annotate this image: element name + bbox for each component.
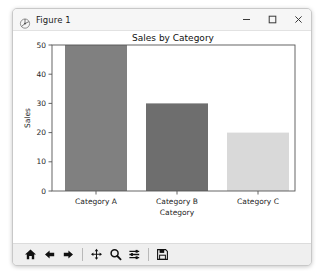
screenshot-root: Figure 1 — [0, 0, 322, 276]
pan-icon[interactable] — [88, 246, 105, 263]
forward-arrow-icon[interactable] — [60, 246, 77, 263]
toolbar-separator — [148, 248, 149, 261]
save-icon[interactable] — [154, 246, 171, 263]
window-titlebar: Figure 1 — [13, 9, 311, 31]
bar-category-a[interactable] — [65, 45, 127, 191]
minimize-icon[interactable] — [233, 9, 259, 30]
matplotlib-icon — [19, 14, 31, 26]
window-controls — [233, 9, 311, 30]
x-axis-ticks — [96, 191, 258, 195]
matplotlib-figure[interactable]: 0 10 20 30 40 50 Category A — [13, 31, 309, 243]
y-tick-label: 30 — [36, 99, 46, 108]
y-tick-label: 10 — [36, 157, 46, 166]
y-axis-tick-labels: 0 10 20 30 40 50 — [36, 41, 46, 196]
y-tick-label: 20 — [36, 128, 46, 137]
bar-category-c[interactable] — [227, 133, 289, 191]
home-icon[interactable] — [22, 246, 39, 263]
toolbar-separator — [82, 248, 83, 261]
x-tick-label: Category C — [237, 197, 279, 206]
close-icon[interactable] — [285, 9, 311, 30]
bar-category-b[interactable] — [146, 103, 208, 191]
configure-subplots-icon[interactable] — [126, 246, 143, 263]
x-tick-label: Category B — [156, 197, 198, 206]
y-tick-label: 0 — [41, 187, 46, 196]
figure-canvas-area: 0 10 20 30 40 50 Category A — [13, 31, 311, 243]
matplotlib-toolbar — [13, 243, 311, 265]
bar-chart: 0 10 20 30 40 50 Category A — [13, 31, 309, 243]
back-arrow-icon[interactable] — [41, 246, 58, 263]
y-tick-label: 50 — [36, 41, 46, 50]
x-axis-label: Category — [160, 208, 195, 217]
zoom-icon[interactable] — [107, 246, 124, 263]
y-axis-label: Sales — [23, 108, 32, 128]
window-title: Figure 1 — [36, 15, 71, 25]
y-axis-ticks — [49, 45, 53, 191]
maximize-icon[interactable] — [259, 9, 285, 30]
x-tick-label: Category A — [75, 197, 118, 206]
chart-title: Sales by Category — [132, 33, 215, 43]
y-tick-label: 40 — [36, 70, 46, 79]
x-axis-tick-labels: Category A Category B Category C — [75, 197, 279, 206]
figure-window: Figure 1 — [12, 8, 312, 266]
